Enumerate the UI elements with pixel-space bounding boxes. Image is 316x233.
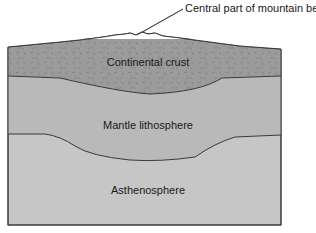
cross-section-diagram <box>0 0 316 233</box>
continental-crust-label: Continental crust <box>107 56 190 68</box>
callout-label: Central part of mountain belt <box>185 2 316 14</box>
callout-leader-line <box>137 9 183 35</box>
asthenosphere-label: Asthenosphere <box>111 184 185 196</box>
mantle-lithosphere-label: Mantle lithosphere <box>103 119 193 131</box>
